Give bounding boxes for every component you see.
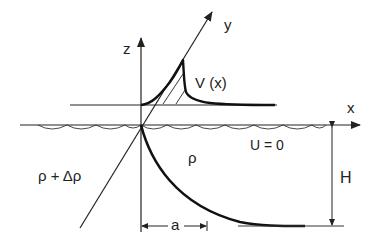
x-axis-label: x <box>347 99 355 116</box>
current-label: U = 0 <box>250 137 284 153</box>
upper-density-label: ρ <box>188 149 197 166</box>
y-axis <box>80 12 212 228</box>
interface-diagram: z y x V (x) U = 0 ρ ρ + Δρ H a <box>0 0 377 246</box>
z-axis-label: z <box>123 40 131 57</box>
y-axis-label: y <box>224 16 232 33</box>
velocity-hatch <box>176 90 185 104</box>
width-label: a <box>171 216 180 233</box>
velocity-label: V (x) <box>195 74 227 91</box>
depth-label: H <box>340 169 352 186</box>
lower-density-label: ρ + Δρ <box>38 167 81 184</box>
